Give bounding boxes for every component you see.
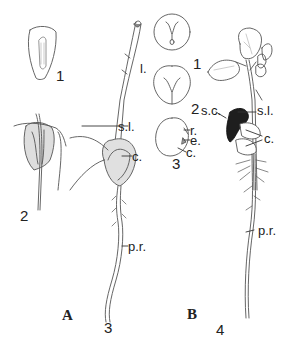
panel-b-label: B <box>187 307 197 322</box>
panel-b-stage-4-label: 4 <box>216 322 224 337</box>
panel-b-stage-1-label: 1 <box>193 56 201 71</box>
panel-b-sheathing-leaf-label: s.l. <box>257 104 274 117</box>
panel-a-label: A <box>62 308 73 323</box>
panel-a-seed-drawing <box>28 26 56 79</box>
illustration-canvas <box>0 0 299 340</box>
panel-b-stage-2-label: 2 <box>191 101 199 116</box>
panel-b-seed-coat-label: s.c. <box>201 104 221 117</box>
panel-b-stage-3-label: 3 <box>172 156 180 171</box>
panel-a-germinating-seed-drawing <box>14 114 66 210</box>
panel-a-primary-root-label: p.r. <box>128 240 146 253</box>
panel-b-seed-stage-1-drawing <box>154 14 190 50</box>
panel-b-cotyledon-label: c. <box>264 132 274 145</box>
seedling-germination-figure: 1 2 3 l. s.l. c. p.r. A 1 2 3 4 r. e. c.… <box>0 0 299 340</box>
panel-b-cotyledon-seed-label: c. <box>186 146 196 159</box>
panel-b-seed-stage-2-drawing <box>154 66 191 104</box>
panel-a-stage-3-label: 3 <box>104 320 112 335</box>
panel-a-coleoptile-label: c. <box>132 150 142 163</box>
panel-a-leaf-label: l. <box>140 62 147 75</box>
panel-b-primary-root-label: p.r. <box>258 224 276 237</box>
panel-a-stage-1-label: 1 <box>56 68 64 83</box>
panel-a-seedling-drawing <box>70 21 141 322</box>
panel-a-sheathing-leaf-label: s.l. <box>118 120 135 133</box>
panel-a-stage-2-label: 2 <box>20 208 28 223</box>
